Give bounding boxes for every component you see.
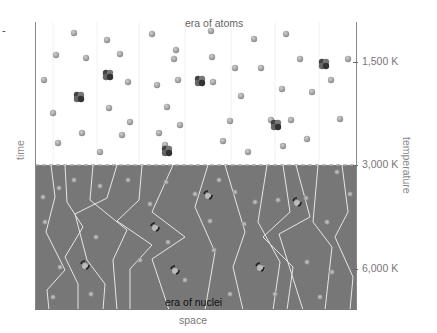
- temp-label-1500: 1,500 K: [362, 55, 398, 67]
- time-axis-title: time: [14, 140, 26, 160]
- photon-paths: [46, 165, 353, 310]
- temp-label-3000: 3,000 K: [362, 158, 398, 170]
- tick-1500: [353, 62, 358, 63]
- tick-6000: [353, 269, 358, 270]
- free-particles: [40, 169, 352, 299]
- diagram-panel: era of atoms era of nuclei: [35, 22, 356, 310]
- space-axis: [35, 309, 357, 310]
- temperature-axis-title: temperature: [401, 137, 413, 194]
- space-axis-title: space: [179, 314, 207, 326]
- temp-label-6000: 6,000 K: [362, 262, 398, 274]
- tick-3000: [353, 165, 358, 166]
- temperature-axis: [356, 22, 357, 310]
- era-of-atoms-label: era of atoms: [185, 17, 243, 29]
- legend-mark: -: [2, 24, 6, 36]
- hydrogen-atoms: [41, 28, 351, 155]
- time-axis: [35, 22, 36, 310]
- faint-streaks: [53, 22, 319, 165]
- era-of-nuclei-label: era of nuclei: [165, 296, 222, 308]
- diagram-artwork: [35, 22, 356, 310]
